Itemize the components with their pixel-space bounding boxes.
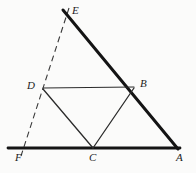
geometry-figure: E B A C F D (0, 0, 196, 173)
segment-bc-thin (93, 88, 134, 148)
segment-db-thin (43, 87, 134, 88)
vertex-label-a: A (176, 152, 183, 163)
vertex-label-c: C (89, 152, 96, 163)
vertex-label-b: B (140, 78, 147, 89)
vertex-label-d: D (27, 80, 35, 91)
vertex-label-f: F (15, 152, 22, 163)
segment-dc-thin (43, 89, 93, 148)
vertex-label-e: E (72, 5, 79, 16)
segment-ea-thick (63, 10, 178, 149)
